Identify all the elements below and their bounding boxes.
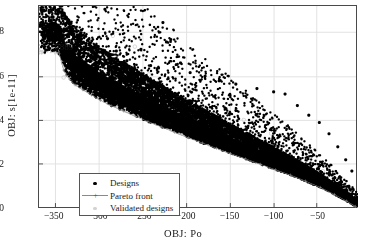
designs-marker-icon [80, 182, 110, 185]
x-tick-label: −150 [220, 211, 240, 221]
legend-label-designs: Designs [110, 178, 139, 188]
x-tick-label: −350 [44, 211, 64, 221]
y-axis-label: OBJ: s[1e-11] [6, 51, 17, 161]
x-tick-label: −50 [310, 211, 325, 221]
pareto-front-marker-icon: + [80, 192, 110, 199]
y-tick-label: 0.4 [0, 115, 4, 125]
y-tick-label: 0.6 [0, 71, 4, 81]
y-tick-label: 0.2 [0, 159, 4, 169]
x-axis-label: OBJ: Po [0, 228, 366, 239]
x-tick-label: −100 [264, 211, 284, 221]
legend-item-designs[interactable]: Designs [80, 177, 179, 190]
y-tick-label: 0.8 [0, 26, 4, 36]
point-annotation-7889: 7889 [55, 42, 73, 52]
y-tick-label: 0 [0, 203, 4, 213]
legend-label-pareto-front: Pareto front [110, 191, 153, 201]
legend-item-validated-designs[interactable]: Validated designs [80, 202, 179, 215]
chart-legend[interactable]: Designs + Pareto front Validated designs [79, 173, 180, 216]
scatter-plot-figure: 7889 Designs + Pareto front Validated de… [0, 0, 366, 249]
plot-area: 7889 Designs + Pareto front Validated de… [38, 5, 357, 208]
legend-item-pareto-front[interactable]: + Pareto front [80, 190, 179, 203]
legend-label-validated-designs: Validated designs [110, 203, 173, 213]
validated-designs-marker-icon [80, 207, 110, 210]
